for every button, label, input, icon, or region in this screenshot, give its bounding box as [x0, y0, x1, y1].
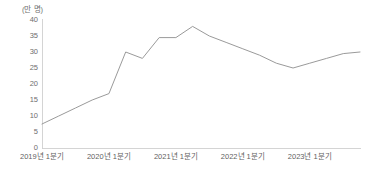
data-series-line [42, 26, 360, 124]
x-tick-label: 2020년 1분기 [75, 152, 143, 161]
x-tick-label: 2021년 1분기 [142, 152, 210, 161]
x-tick-label: 2022년 1분기 [209, 152, 277, 161]
x-tick-label: 2019년 1분기 [8, 152, 76, 161]
x-tick-label: 2023년 1분기 [276, 152, 344, 161]
line-chart: (만 명) 0510152025303540 2019년 1분기2020년 1분… [0, 0, 367, 180]
